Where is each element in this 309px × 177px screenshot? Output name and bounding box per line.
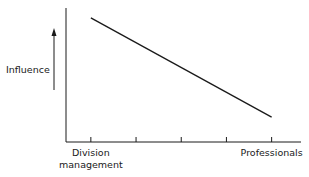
chart: Influence DivisionmanagementProfessional… — [0, 0, 309, 177]
arrow-up-icon — [52, 28, 57, 36]
y-direction-arrow — [52, 28, 57, 90]
x-tick-label: Professionals — [241, 147, 303, 158]
x-tick-label: Division — [72, 147, 110, 158]
series-line-influence — [91, 18, 272, 117]
x-tick-label: management — [59, 159, 123, 170]
series-group — [91, 18, 272, 117]
x-tick-labels: DivisionmanagementProfessionals — [59, 147, 303, 170]
x-ticks — [91, 137, 272, 142]
y-axis-label: Influence — [6, 64, 50, 75]
